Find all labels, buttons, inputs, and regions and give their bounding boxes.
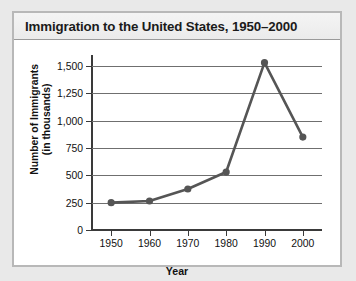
y-axis-tick-label: 1,250 [57, 88, 83, 99]
data-point-marker [261, 59, 268, 66]
data-point-marker [299, 133, 306, 140]
data-series-layer [92, 55, 322, 230]
x-axis-tick-label: 2000 [291, 238, 314, 249]
x-axis-tick-label: 1990 [253, 238, 276, 249]
plot-region: Number of Immigrants (in thousands) Year… [14, 41, 340, 265]
x-axis-title: Year [14, 265, 340, 277]
y-axis-tick-label: 250 [66, 197, 83, 208]
x-axis-tick [226, 230, 227, 236]
x-axis-tick-label: 1980 [215, 238, 238, 249]
data-line [111, 63, 303, 203]
plot-area: 02505007501,0001,2501,500 19501960197019… [92, 55, 322, 230]
y-axis-tick-label: 500 [66, 170, 83, 181]
x-axis-tick [303, 230, 304, 236]
y-axis-tick-label: 1,000 [57, 115, 83, 126]
y-axis-title-line-1: Number of Immigrants [29, 44, 41, 194]
data-point-marker [184, 185, 191, 192]
data-point-marker [108, 199, 115, 206]
chart-card: Immigration to the United States, 1950–2… [12, 11, 342, 267]
x-axis-tick-label: 1970 [176, 238, 199, 249]
x-axis-tick-label: 1960 [138, 238, 161, 249]
data-point-marker [146, 197, 153, 204]
y-axis-tick-label: 1,500 [57, 60, 83, 71]
y-axis-tick-label: 750 [66, 142, 83, 153]
y-axis-tick-label: 0 [77, 225, 83, 236]
x-axis-tick [150, 230, 151, 236]
x-axis-tick [188, 230, 189, 236]
x-axis-tick [111, 230, 112, 236]
data-point-marker [223, 168, 230, 175]
y-axis-title-line-2: (in thousands) [41, 44, 53, 194]
y-axis-title: Number of Immigrants (in thousands) [29, 44, 54, 194]
chart-title: Immigration to the United States, 1950–2… [14, 13, 340, 40]
x-axis-tick [265, 230, 266, 236]
y-axis-tick [86, 230, 92, 231]
x-axis-tick-label: 1950 [100, 238, 123, 249]
